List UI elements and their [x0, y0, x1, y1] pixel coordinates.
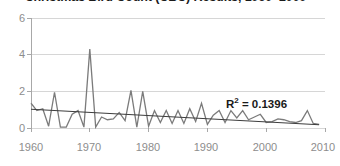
trendline	[31, 109, 319, 124]
data-series-line-0	[31, 49, 319, 127]
